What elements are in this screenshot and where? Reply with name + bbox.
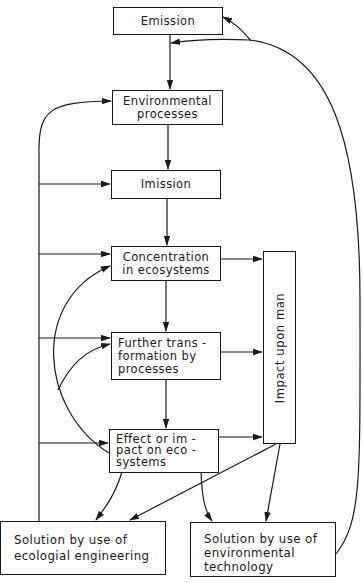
node-concentration: Concentration in ecosystems	[111, 246, 221, 281]
node-further-transformation: Further trans - formation by processes	[111, 332, 221, 380]
connector-lines	[0, 0, 363, 583]
node-emission: Emission	[113, 7, 223, 35]
arrow-effect-to-technology	[201, 472, 212, 521]
arrow-branch-to-emission	[223, 17, 251, 41]
node-imission: Imission	[111, 170, 221, 199]
node-environmental-processes: Environmental processes	[112, 90, 223, 125]
arrow-effect-to-further	[58, 344, 110, 390]
node-solution-ecological-engineering: Solution by use of ecologial engineering	[0, 521, 166, 575]
node-solution-environmental-technology: Solution by use of environmental technol…	[190, 522, 336, 577]
arrow-effect-to-concentration	[54, 266, 110, 453]
arrow-impact-to-technology	[266, 444, 280, 521]
node-impact-upon-man: Impact upon man	[263, 251, 296, 444]
node-effect-on-ecosystems: Effect or im - pact on eco - systems	[109, 429, 219, 473]
arrow-effect-to-ecological	[96, 472, 122, 520]
arrow-bus-to-env	[39, 101, 111, 150]
